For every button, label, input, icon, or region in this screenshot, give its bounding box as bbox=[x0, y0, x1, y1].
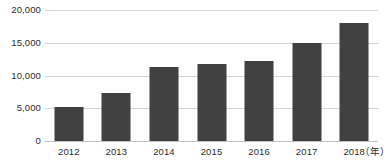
bar-chart: 20,000 15,000 10,000 5,000 0 2012 2013 2… bbox=[0, 0, 390, 166]
y-axis-tick-label: 10,000 bbox=[11, 71, 41, 81]
x-axis-tick-label-2017: 2017 bbox=[296, 147, 318, 157]
y-axis-tick-labels: 20,000 15,000 10,000 5,000 0 bbox=[0, 0, 41, 166]
x-axis-tick-label-2013: 2013 bbox=[106, 147, 128, 157]
y-axis-tick-label: 20,000 bbox=[11, 5, 41, 15]
x-axis-unit-label: （年） bbox=[360, 147, 390, 157]
y-axis-tick-label: 0 bbox=[36, 136, 41, 146]
x-axis-tick-label-2016: 2016 bbox=[248, 147, 270, 157]
plot-area: 2012 2013 2014 2015 2016 2017 2018 bbox=[45, 0, 378, 166]
y-axis-tick-label: 15,000 bbox=[11, 38, 41, 48]
x-axis-tick-labels: 2012 2013 2014 2015 2016 2017 2018 bbox=[45, 0, 378, 166]
y-axis-tick-label: 5,000 bbox=[17, 104, 41, 114]
x-axis-tick-label-2015: 2015 bbox=[201, 147, 223, 157]
x-axis-tick-label-2014: 2014 bbox=[153, 147, 175, 157]
x-axis-tick-label-2012: 2012 bbox=[58, 147, 80, 157]
